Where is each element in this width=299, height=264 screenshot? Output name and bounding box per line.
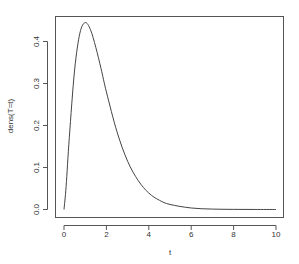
y-tick-label: 0.2: [32, 119, 41, 131]
density-curve: [64, 23, 276, 210]
x-tick-label: 8: [231, 230, 236, 239]
x-tick-label: 4: [147, 230, 152, 239]
x-tick-label: 6: [189, 230, 194, 239]
x-tick-label: 2: [104, 230, 109, 239]
y-tick-label: 0.1: [32, 161, 41, 173]
y-axis: 0.00.10.20.30.4: [32, 35, 48, 215]
y-tick-label: 0.4: [32, 35, 41, 47]
x-tick-label: 10: [272, 230, 281, 239]
y-tick-label: 0.0: [32, 203, 41, 215]
y-axis-label: dens(T=t): [6, 98, 15, 133]
x-axis: 0246810: [62, 226, 281, 240]
plot-frame: [56, 17, 284, 218]
x-tick-label: 0: [62, 230, 67, 239]
density-chart: 0246810 0.00.10.20.30.4 t dens(T=t): [0, 0, 299, 264]
x-axis-label: t: [169, 248, 172, 257]
y-tick-label: 0.3: [32, 77, 41, 89]
